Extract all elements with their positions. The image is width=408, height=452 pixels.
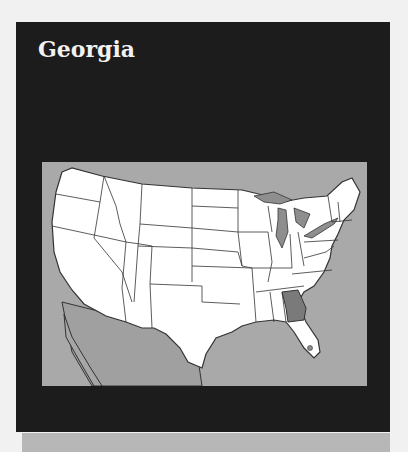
- lake-okeechobee: [308, 346, 313, 351]
- footer-strip: [22, 433, 390, 452]
- state-title: Georgia: [38, 36, 135, 62]
- us-map: [42, 162, 367, 386]
- us-map-svg: [42, 162, 367, 386]
